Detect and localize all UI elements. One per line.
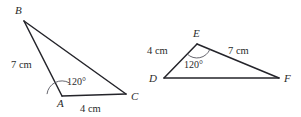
angle-a-label: 120°: [67, 76, 86, 87]
side-de-label: 4 cm: [147, 45, 168, 56]
vertex-label-c: C: [131, 90, 139, 102]
vertex-label-b: B: [15, 4, 22, 16]
side-ab-label: 7 cm: [11, 59, 32, 70]
vertex-label-d: D: [148, 72, 157, 84]
vertex-label-f: F: [283, 72, 291, 84]
side-ac-line: [62, 94, 126, 96]
side-ac-label: 4 cm: [80, 103, 101, 114]
triangle-abc: A B C 7 cm 4 cm 120°: [11, 4, 139, 114]
triangle-def: D E F 4 cm 7 cm 120°: [147, 27, 291, 84]
angle-e-label: 120°: [184, 59, 203, 70]
vertex-label-a: A: [56, 97, 64, 109]
figure-canvas: A B C 7 cm 4 cm 120° D E F 4 cm 7 cm 120…: [0, 0, 301, 117]
side-ef-label: 7 cm: [228, 45, 249, 56]
vertex-label-e: E: [192, 27, 200, 39]
geometry-figure: A B C 7 cm 4 cm 120° D E F 4 cm 7 cm 120…: [0, 0, 301, 117]
